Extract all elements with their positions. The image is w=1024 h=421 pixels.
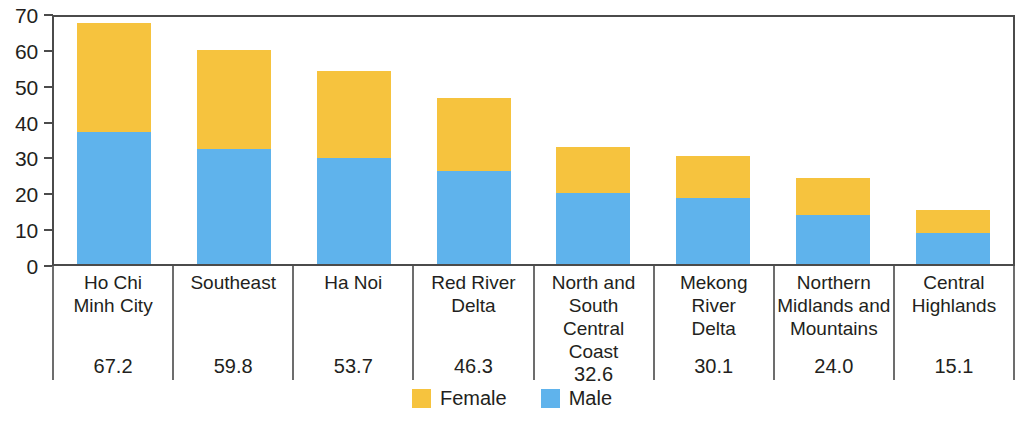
bar-segment-male[interactable] bbox=[676, 198, 750, 264]
category-cell: Red River Delta46.3 bbox=[412, 266, 532, 380]
y-axis: 706050403020100 bbox=[0, 0, 52, 272]
bar-column bbox=[294, 17, 414, 264]
bar-segment-female[interactable] bbox=[556, 147, 630, 193]
bar-column bbox=[174, 17, 294, 264]
bar-segment-female[interactable] bbox=[197, 50, 271, 149]
bar-segment-male[interactable] bbox=[317, 158, 391, 264]
bar-column bbox=[534, 17, 654, 264]
category-value-table: Ho Chi Minh City67.2Southeast59.8Ha Noi5… bbox=[52, 266, 1015, 380]
legend-label: Female bbox=[440, 388, 507, 408]
legend-swatch-female bbox=[412, 389, 431, 408]
bar-segment-male[interactable] bbox=[796, 215, 870, 264]
bar-segment-female[interactable] bbox=[916, 210, 990, 233]
y-axis-tick-label: 60 bbox=[15, 40, 38, 61]
bar-segment-female[interactable] bbox=[317, 71, 391, 157]
category-cell: Mekong River Delta30.1 bbox=[653, 266, 773, 380]
y-axis-tick-label: 0 bbox=[27, 256, 38, 277]
bar-column bbox=[653, 17, 773, 264]
stacked-bar[interactable] bbox=[556, 147, 630, 264]
category-label: Northern Midlands and Mountains bbox=[775, 271, 892, 340]
category-label: Ho Chi Minh City bbox=[71, 271, 154, 317]
category-total-value: 53.7 bbox=[334, 355, 373, 377]
category-total-value: 67.2 bbox=[94, 355, 133, 377]
category-label: Southeast bbox=[188, 271, 278, 294]
category-cell: Ha Noi53.7 bbox=[292, 266, 412, 380]
bar-column bbox=[54, 17, 174, 264]
stacked-bar[interactable] bbox=[796, 178, 870, 264]
legend-item[interactable]: Female bbox=[412, 388, 507, 408]
stacked-bar[interactable] bbox=[77, 23, 151, 264]
bar-segment-female[interactable] bbox=[676, 156, 750, 198]
bar-segment-male[interactable] bbox=[556, 193, 630, 264]
category-cell: Northern Midlands and Mountains24.0 bbox=[773, 266, 893, 380]
stacked-bar[interactable] bbox=[916, 210, 990, 264]
legend-item[interactable]: Male bbox=[541, 388, 612, 408]
category-cell: North and South Central Coast32.6 bbox=[533, 266, 653, 380]
category-total-value: 46.3 bbox=[454, 355, 493, 377]
stacked-bar[interactable] bbox=[197, 50, 271, 264]
plot-area bbox=[52, 15, 1015, 266]
category-total-value: 24.0 bbox=[814, 355, 853, 377]
chart-legend: FemaleMale bbox=[0, 388, 1024, 408]
category-label: Red River Delta bbox=[429, 271, 517, 317]
category-total-value: 32.6 bbox=[574, 363, 613, 385]
bar-segment-female[interactable] bbox=[796, 178, 870, 215]
stacked-bar-chart: 706050403020100 Ho Chi Minh City67.2Sout… bbox=[0, 0, 1024, 421]
bar-segment-female[interactable] bbox=[437, 98, 511, 171]
bar-segment-male[interactable] bbox=[437, 171, 511, 264]
category-label: North and South Central Coast bbox=[535, 271, 653, 363]
category-total-value: 59.8 bbox=[214, 355, 253, 377]
y-axis-tick-label: 70 bbox=[15, 5, 38, 26]
category-total-value: 15.1 bbox=[934, 355, 973, 377]
legend-swatch-male bbox=[541, 389, 560, 408]
bar-column bbox=[893, 17, 1013, 264]
legend-label: Male bbox=[569, 388, 612, 408]
bar-segment-male[interactable] bbox=[77, 132, 151, 264]
bar-segment-female[interactable] bbox=[77, 23, 151, 132]
y-axis-tick-label: 30 bbox=[15, 148, 38, 169]
category-cell: Ho Chi Minh City67.2 bbox=[52, 266, 172, 380]
category-label: Ha Noi bbox=[322, 271, 384, 294]
y-axis-tick-label: 10 bbox=[15, 220, 38, 241]
stacked-bar[interactable] bbox=[676, 156, 750, 264]
y-axis-tick-label: 50 bbox=[15, 76, 38, 97]
category-label: Central Highlands bbox=[910, 271, 999, 317]
bar-column bbox=[414, 17, 534, 264]
bar-column bbox=[773, 17, 893, 264]
y-axis-tick-label: 20 bbox=[15, 184, 38, 205]
y-axis-tick-label: 40 bbox=[15, 112, 38, 133]
stacked-bar[interactable] bbox=[317, 71, 391, 264]
category-label: Mekong River Delta bbox=[678, 271, 750, 340]
stacked-bar[interactable] bbox=[437, 98, 511, 264]
bar-segment-male[interactable] bbox=[197, 149, 271, 264]
bar-segment-male[interactable] bbox=[916, 233, 990, 264]
category-cell: Central Highlands15.1 bbox=[893, 266, 1015, 380]
category-cell: Southeast59.8 bbox=[172, 266, 292, 380]
bars-container bbox=[54, 17, 1013, 264]
category-total-value: 30.1 bbox=[694, 355, 733, 377]
